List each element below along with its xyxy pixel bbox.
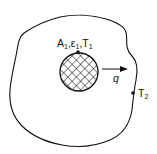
enclosure-point-dot [131, 91, 135, 95]
radiation-enclosure-diagram: A1,ε1,T1 q T2 [0, 0, 157, 154]
body-label: A1,ε1,T1 [57, 37, 93, 50]
flux-label: q [113, 72, 119, 84]
arrow-head-icon [120, 66, 128, 72]
enclosure-label: T2 [138, 87, 148, 100]
body-point-dot [76, 50, 80, 54]
inner-body [60, 53, 98, 91]
